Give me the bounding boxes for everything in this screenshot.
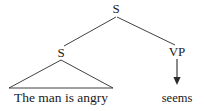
terminal-text-phrase: The man is angry (0, 91, 122, 105)
branch-root-to-left-s (64, 17, 116, 46)
node-label-vp: VP (139, 45, 204, 58)
node-label-left-s: S (0, 46, 122, 59)
node-label-root-s: S (0, 2, 204, 15)
branch-root-to-vp (117, 17, 175, 45)
syntax-tree-diagram: S S VP The man is angry seems (0, 0, 204, 111)
terminal-text-verb: seems (139, 92, 204, 105)
triangle-left-edge (9, 60, 61, 88)
triangle-right-edge (61, 60, 113, 88)
vp-arrow-head (173, 77, 180, 85)
